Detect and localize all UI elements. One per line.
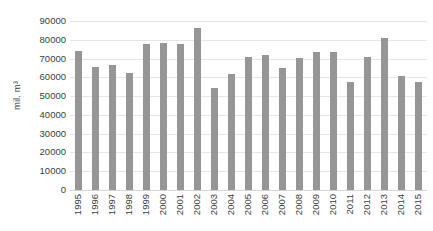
bar (364, 57, 371, 190)
bar-slot (70, 21, 87, 190)
x-tick-slot: 2000 (155, 192, 172, 231)
x-tick-label: 2010 (327, 194, 337, 215)
y-tick-label: 50000 (40, 91, 66, 101)
y-tick-label: 40000 (40, 110, 66, 120)
x-tick-slot: 2015 (410, 192, 427, 231)
bar (330, 52, 337, 190)
bar-slot (87, 21, 104, 190)
x-tick-label: 2014 (395, 194, 405, 215)
x-tick-label: 2001 (174, 194, 184, 215)
bar-slot (206, 21, 223, 190)
bar-slot (342, 21, 359, 190)
bar-slot (359, 21, 376, 190)
bar (262, 55, 269, 190)
bar (143, 44, 150, 190)
x-tick-slot: 2014 (393, 192, 410, 231)
bar-slot (393, 21, 410, 190)
bar-slot (308, 21, 325, 190)
bar-slot (172, 21, 189, 190)
bar (160, 43, 167, 190)
bar-slot (376, 21, 393, 190)
axis-baseline (70, 190, 427, 191)
bar (211, 88, 218, 190)
bar (313, 52, 320, 190)
x-tick-slot: 2002 (189, 192, 206, 231)
bar (296, 58, 303, 190)
y-axis-title-label: mil. m³ (12, 80, 23, 109)
y-tick-label: 20000 (40, 148, 66, 158)
bar-slot (274, 21, 291, 190)
x-tick-slot: 2008 (291, 192, 308, 231)
x-tick-slot: 2005 (240, 192, 257, 231)
plot-area (70, 21, 427, 190)
y-tick-label: 70000 (40, 54, 66, 64)
x-tick-label: 2013 (378, 194, 388, 215)
bar-slot (223, 21, 240, 190)
bar (75, 51, 82, 190)
x-tick-label: 1999 (140, 194, 150, 215)
x-tick-label: 1997 (106, 194, 116, 215)
x-tick-slot: 2013 (376, 192, 393, 231)
bar (245, 57, 252, 190)
bar (279, 68, 286, 190)
x-tick-slot: 2012 (359, 192, 376, 231)
x-axis-tick-labels: 1995199619971998199920002001200220032004… (70, 192, 427, 231)
x-tick-label: 2003 (208, 194, 218, 215)
y-tick-label: 10000 (40, 166, 66, 176)
bar-slot (155, 21, 172, 190)
bar-slot (240, 21, 257, 190)
x-tick-label: 2006 (259, 194, 269, 215)
bar (109, 65, 116, 190)
bar (398, 76, 405, 190)
bar-series (70, 21, 427, 190)
x-tick-label: 2011 (345, 194, 355, 214)
bar-slot (104, 21, 121, 190)
x-tick-slot: 2007 (274, 192, 291, 231)
bar-chart: mil. m³ 90000800007000060000500004000030… (0, 0, 433, 231)
x-tick-slot: 1996 (87, 192, 104, 231)
x-tick-slot: 2001 (172, 192, 189, 231)
y-tick-label: 0 (61, 185, 66, 195)
x-tick-label: 2000 (157, 194, 167, 215)
x-tick-slot: 2004 (223, 192, 240, 231)
bar (381, 38, 388, 190)
y-tick-label: 30000 (40, 129, 66, 139)
x-tick-slot: 2003 (206, 192, 223, 231)
x-tick-slot: 1998 (121, 192, 138, 231)
y-tick-label: 60000 (40, 73, 66, 83)
x-tick-label: 2015 (412, 194, 422, 215)
bar-slot (325, 21, 342, 190)
x-tick-slot: 2006 (257, 192, 274, 231)
x-tick-label: 2004 (225, 194, 235, 215)
x-tick-slot: 2011 (342, 192, 359, 231)
bar (415, 82, 422, 190)
bar-slot (189, 21, 206, 190)
bar (347, 82, 354, 190)
x-tick-label: 2009 (310, 194, 320, 215)
bar (92, 67, 99, 190)
y-tick-label: 90000 (40, 16, 66, 26)
x-tick-label: 2012 (361, 194, 371, 215)
bar-slot (257, 21, 274, 190)
bar (228, 74, 235, 190)
bar (177, 44, 184, 190)
x-tick-slot: 1997 (104, 192, 121, 231)
x-tick-label: 1998 (123, 194, 133, 215)
x-tick-label: 1996 (89, 194, 99, 215)
x-tick-label: 2008 (293, 194, 303, 215)
bar (126, 73, 133, 190)
x-tick-label: 2005 (242, 194, 252, 215)
x-tick-slot: 2009 (308, 192, 325, 231)
y-tick-label: 80000 (40, 35, 66, 45)
bar-slot (410, 21, 427, 190)
bar (194, 28, 201, 190)
x-tick-label: 1995 (72, 194, 82, 215)
x-tick-slot: 1999 (138, 192, 155, 231)
x-tick-label: 2002 (191, 194, 201, 215)
bar-slot (291, 21, 308, 190)
x-tick-slot: 1995 (70, 192, 87, 231)
bar-slot (138, 21, 155, 190)
bar-slot (121, 21, 138, 190)
x-tick-label: 2007 (276, 194, 286, 215)
x-tick-slot: 2010 (325, 192, 342, 231)
